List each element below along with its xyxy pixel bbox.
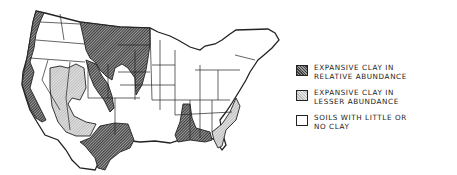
legend-label: SOILS WITH LITTLE OR NO CLAY (314, 114, 407, 131)
legend-item-lesser-abundance: EXPANSIVE CLAY IN LESSER ABUNDANCE (296, 89, 456, 106)
legend-label: EXPANSIVE CLAY IN LESSER ABUNDANCE (314, 89, 399, 106)
light-stipple-swatch-icon (296, 90, 308, 101)
map-legend: EXPANSIVE CLAY IN RELATIVE ABUNDANCE EXP… (296, 64, 456, 139)
empty-swatch-icon (296, 115, 308, 126)
dense-hatch-swatch-icon (296, 65, 308, 76)
legend-label: EXPANSIVE CLAY IN RELATIVE ABUNDANCE (314, 64, 407, 81)
legend-item-little-or-no-clay: SOILS WITH LITTLE OR NO CLAY (296, 114, 456, 131)
legend-item-relative-abundance: EXPANSIVE CLAY IN RELATIVE ABUNDANCE (296, 64, 456, 81)
us-expansive-clay-map (0, 0, 290, 175)
